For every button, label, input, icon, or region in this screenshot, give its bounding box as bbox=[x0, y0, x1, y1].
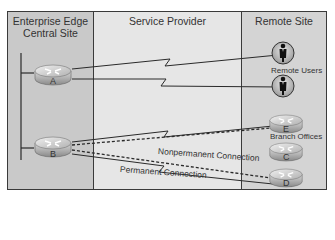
router-b-letter: B bbox=[50, 149, 56, 159]
router-b[interactable]: B bbox=[35, 137, 71, 159]
branch-offices-label: Branch Offices bbox=[270, 132, 322, 141]
router-c-letter: C bbox=[283, 152, 290, 162]
router-c[interactable]: C bbox=[270, 143, 302, 162]
remote-user-1[interactable] bbox=[272, 42, 294, 64]
router-a[interactable]: A bbox=[35, 65, 71, 86]
link-a-user1 bbox=[72, 55, 278, 69]
link-b-e-nonpermanent bbox=[72, 127, 283, 145]
remote-users-label: Remote Users bbox=[271, 66, 322, 75]
remote-user-2[interactable] bbox=[272, 75, 294, 97]
router-a-letter: A bbox=[50, 76, 56, 86]
link-a-user2 bbox=[72, 79, 280, 87]
link-b-e-permanent bbox=[72, 125, 283, 142]
router-d[interactable]: D bbox=[270, 169, 302, 188]
router-d-letter: D bbox=[283, 178, 290, 188]
